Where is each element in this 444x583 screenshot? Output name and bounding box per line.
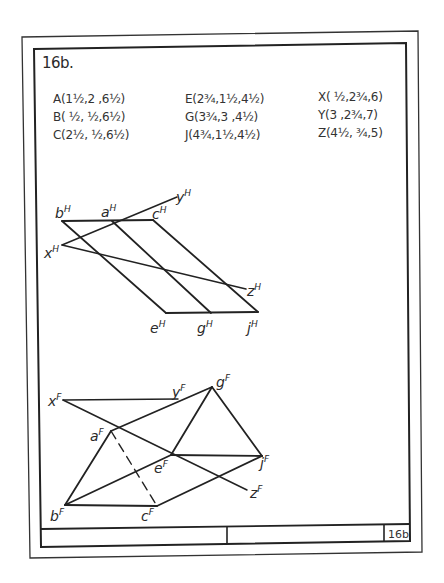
front-view-labels: xF yF gF aF eF jF zF bF cF (47, 373, 270, 524)
coords-column-1: A(1½,2 ,6½) B( ½, ½,6½) C(2½, ½,6½) (53, 90, 129, 144)
coord-b: B( ½, ½,6½) (53, 108, 129, 126)
coord-y: Y(3 ,2¾,7) (318, 106, 383, 124)
svg-text:eF: eF (154, 459, 169, 476)
svg-text:zF: zF (249, 484, 263, 501)
coords-column-3: X( ½,2¾,6) Y(3 ,2¾,7) Z(4½, ¾,5) (318, 88, 383, 142)
svg-text:jH: jH (245, 319, 258, 336)
label-e-f: e (154, 460, 163, 476)
svg-text:yF: yF (171, 383, 186, 400)
svg-text:bF: bF (50, 507, 65, 524)
label-g-h: g (197, 320, 206, 336)
label-b-f: b (50, 508, 59, 524)
svg-text:bH: bH (55, 204, 71, 221)
problem-title: 16b. (42, 54, 73, 72)
coords-column-2: E(2¾,1½,4½) G(3¾,3 ,4½) J(4¾,1½,4½) (185, 90, 264, 144)
coord-z: Z(4½, ¾,5) (318, 124, 383, 142)
svg-text:cF: cF (141, 507, 155, 524)
title-strip-line (41, 524, 410, 529)
svg-text:xF: xF (47, 392, 62, 409)
sheet-number: 16b (388, 528, 409, 541)
label-e-h: e (150, 320, 159, 336)
drawing-sheet: bH aH cH yH xH zH eH gH jH xF yF gF aF e… (0, 0, 444, 583)
svg-text:jF: jF (258, 454, 270, 471)
svg-text:xH: xH (43, 244, 59, 261)
svg-text:zH: zH (246, 282, 261, 299)
front-view (63, 387, 262, 506)
svg-text:eH: eH (150, 319, 166, 336)
label-b-h: b (55, 205, 64, 221)
coord-c: C(2½, ½,6½) (53, 126, 129, 144)
coord-g: G(3¾,3 ,4½) (185, 108, 264, 126)
label-a-f: a (90, 428, 99, 444)
label-a-h: a (101, 204, 110, 220)
svg-text:gH: gH (197, 319, 213, 336)
coord-j: J(4¾,1½,4½) (185, 126, 264, 144)
svg-text:gF: gF (216, 373, 231, 390)
coord-x: X( ½,2¾,6) (318, 88, 383, 106)
svg-text:aF: aF (90, 427, 105, 444)
top-view-labels: bH aH cH yH xH zH eH gH jH (43, 188, 261, 336)
svg-text:yH: yH (175, 188, 191, 205)
coord-a: A(1½,2 ,6½) (53, 90, 129, 108)
label-g-f: g (216, 374, 225, 390)
svg-text:cH: cH (152, 205, 167, 222)
coord-e: E(2¾,1½,4½) (185, 90, 264, 108)
svg-text:aH: aH (101, 203, 117, 220)
